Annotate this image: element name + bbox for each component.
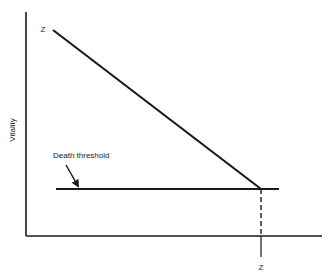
vitality-decline-line	[53, 30, 261, 189]
threshold-pointer-arrow	[66, 165, 78, 186]
end-point-label: Z	[259, 263, 264, 272]
start-point-label: Z	[41, 25, 46, 34]
vitality-diagram: Vitality Z Death threshold Z	[0, 0, 332, 278]
y-axis-label: Vitality	[8, 118, 17, 141]
threshold-label: Death threshold	[53, 151, 109, 160]
